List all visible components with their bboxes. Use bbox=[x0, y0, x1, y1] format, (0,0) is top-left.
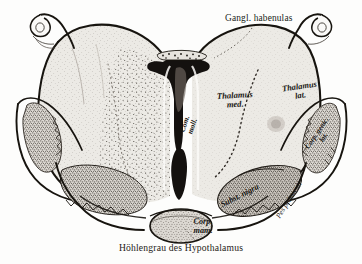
anatomical-figure: Gangl. habenulas Thalamus med. Thalamus … bbox=[0, 0, 362, 264]
brain-section-drawing bbox=[0, 0, 362, 264]
